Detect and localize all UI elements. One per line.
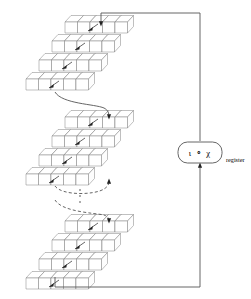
state-slab-top [26,16,134,91]
figure-canvas: ι ∘ χ register [0,0,251,299]
register-side-label: register [226,148,245,166]
state-slab-bottom [26,215,134,290]
register-operation-text: ι ∘ χ [189,148,211,158]
register-operation-label: ι ∘ χ [178,142,222,163]
state-slab-middle [26,111,134,186]
vertical-ellipsis [79,189,81,203]
